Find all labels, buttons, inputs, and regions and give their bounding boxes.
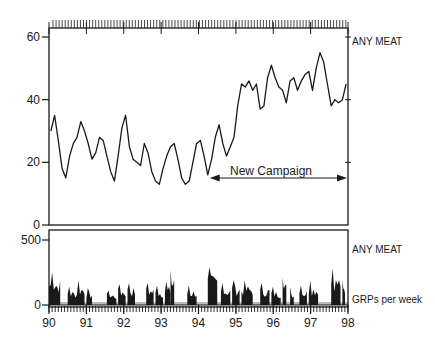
top-y-axis: 0204060: [27, 30, 49, 232]
arrow-head-left-icon: [210, 175, 220, 182]
campaign-label: New Campaign: [230, 164, 312, 178]
grp-burst: [342, 280, 345, 305]
y-tick-label: 60: [27, 30, 41, 44]
grp-burst: [208, 267, 217, 305]
x-tick-label: 95: [229, 316, 243, 330]
x-tick-label: 98: [341, 316, 355, 330]
y-tick-label: 40: [27, 93, 41, 107]
y-tick-label: 0: [34, 298, 41, 312]
grp-burst: [283, 278, 287, 305]
grp-burst: [242, 280, 253, 305]
meat-campaign-chart: 0204060 ANY MEAT New Campaign 0500 90919…: [0, 0, 435, 349]
grp-burst: [260, 283, 269, 305]
grp-burst: [128, 283, 136, 305]
bottom-panel-bar-chart: 0500 909192939495969798 ANY MEAT GRPs pe…: [21, 230, 423, 330]
x-tick-label: 90: [42, 316, 56, 330]
top-panel-line-chart: 0204060 ANY MEAT New Campaign: [27, 20, 403, 232]
grp-burst: [165, 282, 171, 305]
x-tick-label: 96: [267, 316, 281, 330]
x-tick-label: 94: [192, 316, 206, 330]
grp-burst: [146, 283, 153, 305]
x-tick-label: 91: [80, 316, 94, 330]
grps-per-week-label: GRPs per week: [352, 294, 423, 305]
x-tick-label: 92: [117, 316, 131, 330]
bottom-series-label: ANY MEAT: [352, 244, 402, 255]
bottom-y-axis: 0500: [21, 233, 49, 312]
x-axis-year-ticks: 909192939495969798: [42, 305, 355, 330]
top-plot-frame: [49, 28, 348, 225]
grp-burst: [221, 283, 230, 305]
top-week-tick-band: [49, 20, 348, 34]
top-series-label: ANY MEAT: [352, 36, 402, 47]
new-campaign-annotation: New Campaign: [210, 164, 347, 182]
grp-burst: [331, 269, 340, 305]
grp-burst: [309, 280, 318, 305]
y-tick-label: 0: [33, 218, 40, 232]
x-tick-label: 93: [154, 316, 168, 330]
grp-burst: [118, 284, 126, 305]
x-tick-label: 97: [304, 316, 318, 330]
grp-burst: [171, 270, 175, 305]
arrow-head-right-icon: [337, 175, 347, 182]
grp-burst: [77, 280, 85, 305]
grp-bars: [49, 267, 348, 305]
y-tick-label: 20: [27, 155, 41, 169]
grp-burst: [49, 273, 60, 306]
grp-burst: [232, 280, 240, 305]
y-tick-label: 500: [21, 233, 41, 247]
